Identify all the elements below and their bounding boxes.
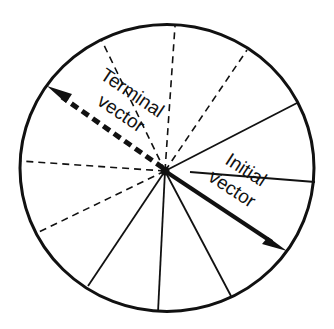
vector-rotation-diagram: Terminal vector Initial vector: [0, 0, 334, 329]
solid-spoke-bottom-left: [88, 171, 165, 286]
solid-spoke-bottom: [158, 171, 165, 312]
dashed-spoke-lower-left: [39, 171, 165, 232]
solid-spokes: [88, 103, 315, 312]
dashed-spoke-top: [165, 26, 175, 171]
dashed-spoke-left: [21, 161, 165, 171]
terminal-arrowhead-icon: [47, 86, 72, 103]
